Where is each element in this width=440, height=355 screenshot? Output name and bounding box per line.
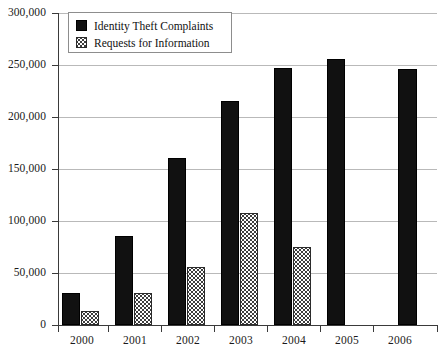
x-axis-label-2003: 2003 — [211, 334, 271, 346]
y-axis-label-0: 0 — [40, 319, 46, 331]
bar-requests-2004 — [293, 247, 311, 325]
bar-chart: 300,000 250,000 200,000 150,000 100,000 … — [0, 0, 440, 355]
x-axis-line — [58, 325, 438, 326]
legend-swatch-dotted-icon — [76, 37, 87, 48]
bar-identity-theft-2006 — [398, 69, 417, 325]
chart-legend: Identity Theft Complaints Requests for I… — [68, 12, 232, 53]
bar-identity-theft-2005 — [327, 59, 345, 325]
legend-item-requests-for-information: Requests for Information — [76, 34, 225, 51]
y-axis-label-200000: 200,000 — [8, 111, 46, 123]
x-tick-3 — [214, 326, 215, 332]
bar-identity-theft-2003 — [221, 101, 239, 325]
bar-identity-theft-2004 — [274, 68, 292, 325]
x-tick-1 — [108, 326, 109, 332]
bars-layer — [58, 13, 437, 325]
x-tick-5 — [320, 326, 321, 332]
x-axis-label-2002: 2002 — [158, 334, 218, 346]
bar-requests-2001 — [134, 293, 152, 325]
legend-swatch-solid-icon — [76, 20, 87, 31]
x-axis-label-2006: 2006 — [370, 334, 430, 346]
x-tick-7 — [437, 326, 438, 332]
bar-identity-theft-2000 — [62, 293, 80, 325]
y-axis-label-50000: 50,000 — [14, 267, 46, 279]
bar-identity-theft-2002 — [168, 158, 186, 325]
legend-label-requests-for-information: Requests for Information — [94, 37, 210, 49]
x-tick-2 — [161, 326, 162, 332]
bar-requests-2003 — [240, 213, 258, 325]
bar-requests-2002 — [187, 267, 205, 325]
x-tick-6 — [373, 326, 374, 332]
y-axis-label-300000: 300,000 — [8, 7, 46, 19]
legend-item-identity-theft-complaints: Identity Theft Complaints — [76, 17, 225, 34]
x-axis-label-2004: 2004 — [264, 334, 324, 346]
x-axis-label-2001: 2001 — [105, 334, 165, 346]
y-axis-label-250000: 250,000 — [8, 59, 46, 71]
legend-label-identity-theft-complaints: Identity Theft Complaints — [94, 20, 213, 32]
y-axis-label-100000: 100,000 — [8, 215, 46, 227]
bar-identity-theft-2001 — [115, 236, 133, 325]
y-axis-label-150000: 150,000 — [8, 163, 46, 175]
x-axis-label-2000: 2000 — [52, 334, 112, 346]
x-tick-0 — [58, 326, 59, 332]
x-axis-label-2005: 2005 — [317, 334, 377, 346]
x-tick-4 — [267, 326, 268, 332]
bar-requests-2000 — [81, 311, 99, 325]
